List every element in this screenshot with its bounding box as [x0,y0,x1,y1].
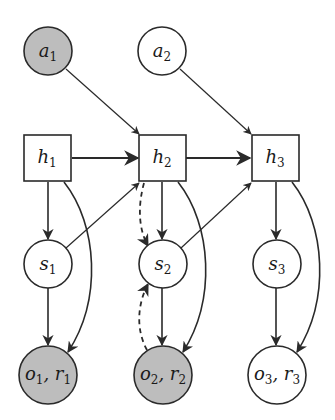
edge-o2-s2-dashed [139,284,148,350]
node-a1-subscript: 1 [50,50,58,64]
node-a1: a1 [24,27,72,75]
node-o3-label: o [254,363,265,384]
node-s3-subscript: 3 [278,263,286,277]
graphical-model-diagram: a1 a2 h1 h2 h3 s1 s2 s3 o1, r1 o2, r2 o3 [0,0,335,420]
edge-s2-h3 [181,183,251,248]
edge-a1-h2 [66,69,139,134]
edge-s1-h2 [66,183,139,248]
node-o1-r1: o1, r1 [19,346,77,404]
node-h3-subscript: 3 [277,156,285,170]
node-r1-subscript: 1 [63,373,71,387]
node-r2-subscript: 2 [178,373,186,387]
node-r3-subscript: 3 [292,373,300,387]
edge-h2-s2-dashed [140,183,148,246]
node-s2-label: s [155,253,164,274]
node-o3-subscript: 3 [265,373,273,387]
node-h3: h3 [252,135,299,181]
node-h3-label: h [265,146,277,167]
node-o2-separator: , [158,363,169,384]
node-o2-label: o [140,363,151,384]
node-o2-subscript: 2 [151,373,159,387]
node-a1-label: a [39,40,50,61]
node-s1-label: s [40,253,49,274]
node-a2-label: a [153,40,164,61]
node-s3: s3 [253,240,301,288]
node-o1-separator: , [43,363,54,384]
node-h2: h2 [139,135,186,181]
node-h1-label: h [37,146,49,167]
node-o2-r2: o2, r2 [134,346,192,404]
node-s1: s1 [24,240,72,288]
node-a2-subscript: 2 [164,50,172,64]
edge-a2-h3 [180,69,251,134]
node-h2-subscript: 2 [164,156,172,170]
node-h1: h1 [24,135,71,181]
node-o1-label: o [25,363,36,384]
node-h1-subscript: 1 [49,156,57,170]
edges [48,69,320,352]
node-s2: s2 [139,240,187,288]
node-s3-label: s [269,253,278,274]
node-o3-separator: , [272,363,283,384]
node-h2-label: h [152,146,164,167]
node-s2-subscript: 2 [164,263,172,277]
node-s1-subscript: 1 [49,263,57,277]
node-a2: a2 [138,27,186,75]
node-o1-subscript: 1 [36,373,44,387]
node-o3-r3: o3, r3 [248,346,306,404]
